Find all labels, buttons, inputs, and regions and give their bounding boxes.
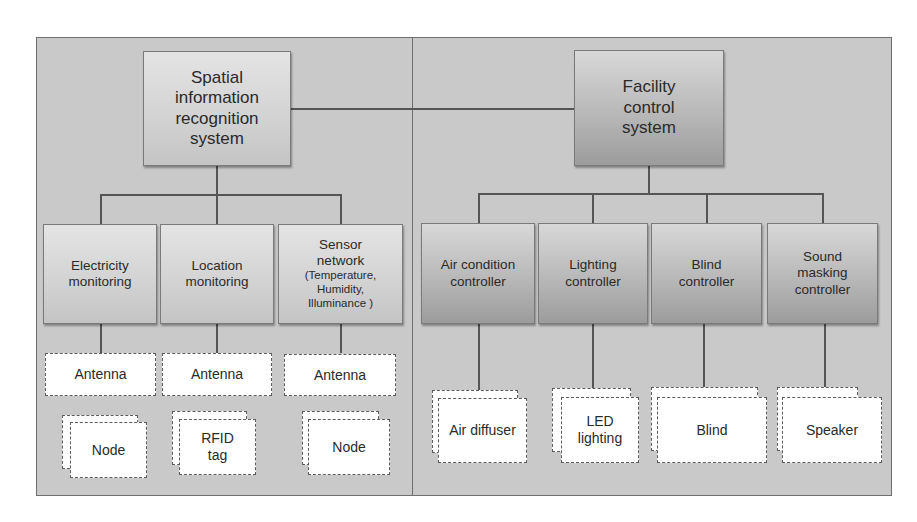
connector-right-bus xyxy=(478,193,823,195)
antenna-box-sensor: Antenna xyxy=(284,354,396,396)
connector-left-root-down xyxy=(216,165,218,194)
connector-left-1 xyxy=(100,194,102,224)
facility-control-system-box: Facility control system xyxy=(574,50,724,166)
connector-left-2-antenna xyxy=(216,323,218,353)
spatial-information-recognition-system-box: Spatial information recognition system xyxy=(143,51,291,166)
connector-root-link xyxy=(290,108,574,110)
blind-controller-box: Blind controller xyxy=(651,223,762,324)
device-label: Blind xyxy=(696,422,727,439)
root-line: control xyxy=(623,98,674,118)
connector-right-2 xyxy=(592,193,594,224)
box-subline: Humidity, xyxy=(317,283,364,297)
box-line: network xyxy=(317,253,364,269)
box-line: Electricity xyxy=(71,258,129,274)
lighting-controller-box: Lighting controller xyxy=(538,223,648,324)
air-condition-controller-box: Air condition controller xyxy=(421,223,535,324)
box-line: Air condition xyxy=(441,257,515,273)
root-line: system xyxy=(622,118,676,138)
connector-right-root-down xyxy=(648,165,650,193)
node-box-electricity: Node xyxy=(70,422,147,478)
connector-right-3-device xyxy=(703,323,705,388)
connector-left-2 xyxy=(216,194,218,224)
box-subline: (Temperature, xyxy=(305,269,377,283)
device-label: RFID xyxy=(201,430,234,447)
box-line: controller xyxy=(679,274,735,290)
root-line: Facility xyxy=(623,77,676,97)
device-label: Node xyxy=(332,439,365,456)
led-lighting-box: LED lighting xyxy=(561,397,639,463)
box-subline: Illuminance ) xyxy=(308,297,373,311)
location-monitoring-box: Location monitoring xyxy=(160,224,274,324)
root-line: information xyxy=(175,88,259,108)
antenna-box-location: Antenna xyxy=(162,353,272,396)
speaker-box: Speaker xyxy=(782,397,882,463)
connector-left-bus xyxy=(100,194,341,196)
device-label: LED xyxy=(586,413,613,430)
antenna-label: Antenna xyxy=(74,366,126,383)
connector-left-3 xyxy=(340,194,342,224)
connector-left-3-antenna xyxy=(340,323,342,353)
device-label: Node xyxy=(92,442,125,459)
connector-right-1 xyxy=(478,193,480,224)
root-line: system xyxy=(190,129,244,149)
rfid-tag-box: RFID tag xyxy=(179,419,256,475)
antenna-label: Antenna xyxy=(314,367,366,384)
root-line: Spatial xyxy=(191,68,243,88)
antenna-box-electricity: Antenna xyxy=(45,353,156,396)
electricity-monitoring-box: Electricity monitoring xyxy=(43,224,157,324)
connector-right-1-device xyxy=(478,323,480,390)
box-line: monitoring xyxy=(185,274,248,290)
device-label: lighting xyxy=(578,430,622,447)
air-diffuser-box: Air diffuser xyxy=(438,398,527,463)
box-line: controller xyxy=(795,282,851,298)
sound-masking-controller-box: Sound masking controller xyxy=(767,223,878,324)
box-line: Lighting xyxy=(569,257,616,273)
box-line: Sound xyxy=(803,249,842,265)
connector-left-1-antenna xyxy=(100,323,102,353)
blind-box: Blind xyxy=(657,397,767,463)
sensor-network-box: Sensor network (Temperature, Humidity, I… xyxy=(278,224,403,324)
box-line: Location xyxy=(191,258,242,274)
device-label: tag xyxy=(208,447,227,464)
box-line: monitoring xyxy=(68,274,131,290)
device-label: Speaker xyxy=(806,422,858,439)
antenna-label: Antenna xyxy=(191,366,243,383)
connector-right-4-device xyxy=(824,323,826,388)
connector-right-3 xyxy=(706,193,708,224)
box-line: Blind xyxy=(691,257,721,273)
device-label: Air diffuser xyxy=(449,422,516,439)
box-line: Sensor xyxy=(319,237,362,253)
connector-right-4 xyxy=(822,193,824,224)
root-line: recognition xyxy=(175,109,258,129)
node-box-sensor: Node xyxy=(308,419,390,475)
box-line: controller xyxy=(450,274,506,290)
box-line: masking xyxy=(797,265,847,281)
connector-right-2-device xyxy=(592,323,594,388)
box-line: controller xyxy=(565,274,621,290)
